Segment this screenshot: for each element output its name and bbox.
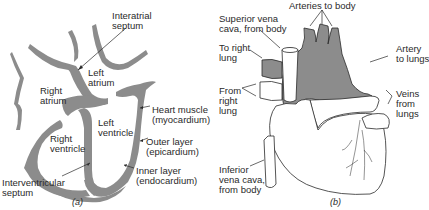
label-from-right-lung: From right lung [219,86,241,116]
right-pulmonary-veins [260,81,282,100]
panel-a-section-view [10,24,156,202]
caption-b: (b) [330,197,341,207]
inferior-vena-cava [264,136,276,188]
label-right-atrium: Right atrium [40,86,66,106]
svc-opening [282,48,298,53]
label-left-atrium: Left atrium [88,68,114,88]
label-inferior-vena-cava: Inferior vena cava, from body [219,165,265,195]
right-pulmonary-artery [262,59,282,78]
label-inner-layer: Inner layer (endocardium) [136,166,197,186]
label-arteries-to-body: Arteries to body [289,1,356,11]
atrial-wall-top [68,30,78,62]
label-artery-to-lungs: Artery to lungs [396,44,429,64]
label-left-ventricle: Left ventricle [98,118,133,138]
right-ventricle-outer-wall [14,104,22,130]
right-atrium-outer-wall [10,52,24,104]
label-interatrial-septum: Interatrial septum [112,11,152,31]
label-outer-layer: Outer layer (epicardium) [146,137,199,157]
caption-a: (a) [72,197,83,207]
superior-vena-cava [282,48,298,102]
label-to-right-lung: To right lung [219,43,250,63]
label-interventricular-septum: Interventricular septum [2,178,65,198]
label-heart-muscle: Heart muscle (myocardium) [152,105,210,125]
label-superior-vena-cava: Superior vena cava, from body [219,14,287,34]
label-right-ventricle: Right ventricle [50,134,85,154]
panel-b-external-view [260,24,389,194]
label-veins-from-lungs: Veins from lungs [396,89,419,119]
left-pulmonary-veins [362,114,389,130]
